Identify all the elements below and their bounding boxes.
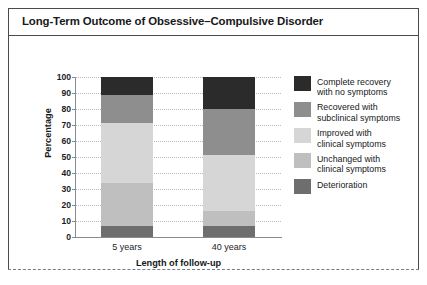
legend-label: Complete recoverywith no symptoms (317, 76, 391, 97)
legend-item: Unchanged withclinical symptoms (294, 153, 414, 174)
bar-40-years (203, 77, 255, 237)
legend-item: Deterioration (294, 179, 414, 194)
bar-segment (203, 155, 255, 211)
bar-segment (203, 109, 255, 155)
legend-swatch-icon (294, 76, 311, 91)
bar-segment (101, 77, 153, 95)
legend-swatch-icon (294, 179, 311, 194)
chart-legend: Complete recoverywith no symptomsRecover… (294, 76, 414, 199)
y-axis-line (75, 77, 76, 238)
x-axis-tick-label: 5 years (82, 242, 172, 252)
legend-swatch-icon (294, 102, 311, 117)
bar-5-years (101, 77, 153, 237)
bar-segment (101, 95, 153, 124)
legend-label: Recovered withsubclinical symptoms (317, 102, 400, 123)
y-axis-tick-30: 30 (45, 184, 71, 194)
y-axis-label: Percentage (43, 88, 53, 178)
bar-segment (101, 123, 153, 182)
bar-segment (203, 211, 255, 225)
legend-item: Complete recoverywith no symptoms (294, 76, 414, 97)
bar-segment (203, 77, 255, 109)
legend-label: Unchanged withclinical symptoms (317, 153, 386, 174)
y-axis-tick-100: 100 (45, 72, 71, 82)
bar-segment (101, 226, 153, 237)
legend-item: Improved withclinical symptoms (294, 128, 414, 149)
x-axis-tick-label: 40 years (184, 242, 274, 252)
figure-panel: Long-Term Outcome of Obsessive–Compulsiv… (8, 8, 419, 270)
bar-segment (101, 183, 153, 226)
legend-swatch-icon (294, 153, 311, 168)
y-axis-tick-0: 0 (45, 232, 71, 242)
legend-label: Deterioration (317, 179, 367, 190)
figure-bottom-edge (8, 269, 419, 270)
legend-label: Improved withclinical symptoms (317, 128, 386, 149)
y-axis-tick-20: 20 (45, 200, 71, 210)
title-bar: Long-Term Outcome of Obsessive–Compulsiv… (9, 9, 418, 36)
x-axis-line (75, 237, 282, 238)
page-title: Long-Term Outcome of Obsessive–Compulsiv… (22, 15, 323, 27)
y-axis-tick-10: 10 (45, 216, 71, 226)
bar-segment (203, 226, 255, 237)
plot-area (75, 77, 281, 237)
legend-swatch-icon (294, 128, 311, 143)
legend-item: Recovered withsubclinical symptoms (294, 102, 414, 123)
x-axis-label: Length of follow-up (75, 258, 282, 268)
